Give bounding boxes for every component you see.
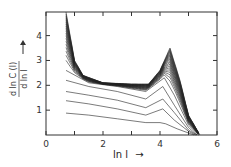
chart-plot: 02461234: [0, 0, 231, 167]
svg-text:0: 0: [43, 139, 49, 149]
svg-text:6: 6: [214, 139, 220, 149]
y-label-denominator: d ln l: [20, 69, 29, 89]
svg-text:4: 4: [157, 139, 163, 149]
svg-text:4: 4: [36, 31, 42, 41]
svg-text:2: 2: [36, 80, 42, 90]
y-label-numerator: d ln C (l): [9, 62, 18, 96]
y-arrow-icon: [20, 40, 26, 54]
svg-text:1: 1: [36, 105, 42, 115]
svg-text:2: 2: [100, 139, 106, 149]
x-arrow-icon: →: [135, 149, 143, 160]
y-axis-label: d ln C (l) d ln l: [4, 52, 34, 106]
x-axis-label: ln l →: [113, 149, 144, 160]
svg-text:3: 3: [36, 55, 42, 65]
x-label-text: ln l: [113, 149, 128, 160]
data-curves: [66, 12, 200, 135]
